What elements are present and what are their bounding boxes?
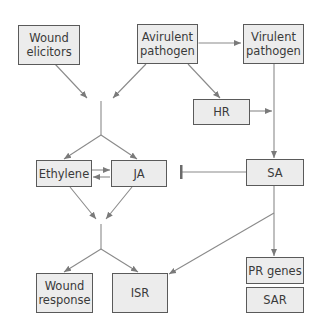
node-label: HR [213,105,230,119]
node-label: Avirulent pathogen [140,30,195,58]
node-ja: JA [111,160,167,187]
edge-avirulent-to-junction [113,64,146,98]
edge-wound-to-junction [55,64,87,98]
node-ethylene: Ethylene [36,160,92,187]
node-label: Ethylene [39,167,90,181]
node-label: Wound response [38,279,90,307]
node-hr: HR [193,99,250,125]
node-sa: SA [246,159,304,186]
node-pr-genes: PR genes [246,257,304,284]
node-sar: SAR [246,287,304,313]
node-label: ISR [131,286,150,300]
node-wound-elicitors: Wound elicitors [18,25,80,65]
edge-avirulent-to-hr [188,64,220,98]
edge-junction-to-ethylene [64,135,101,159]
edge-junction-to-ja [101,135,137,159]
edge-ethylene-to-junction2 [70,187,96,219]
edge-junction2-to-wound-response [64,249,101,272]
edge-ja-to-junction2 [106,187,132,219]
node-label: JA [133,167,144,181]
node-isr: ISR [112,273,168,313]
node-label: SAR [263,293,286,307]
edge-junction2-to-isr [101,249,138,272]
node-label: PR genes [248,264,301,278]
node-label: Wound elicitors [26,31,71,59]
node-label: Virulent pathogen [246,30,301,58]
inhibition-bar [180,165,183,179]
node-virulent-pathogen: Virulent pathogen [243,24,304,64]
node-label: SA [267,166,282,180]
node-wound-response: Wound response [36,273,93,313]
node-avirulent-pathogen: Avirulent pathogen [137,24,198,64]
